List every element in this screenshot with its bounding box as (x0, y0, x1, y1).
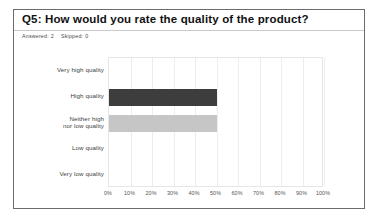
gridline (238, 58, 239, 186)
answered-label: Answered: (22, 33, 49, 39)
y-axis-label: Neither highnor low quality (14, 115, 104, 130)
x-axis-tick-label: 60% (231, 190, 242, 196)
survey-question-card: Q5: How would you rate the quality of th… (13, 9, 365, 209)
plot-area (108, 57, 323, 187)
skipped-value: 0 (85, 33, 88, 39)
x-axis-tick-label: 80% (274, 190, 285, 196)
y-axis-label-line: Very low quality (14, 170, 104, 177)
x-axis-tick-label: 90% (296, 190, 307, 196)
y-axis-label-line: Neither high (14, 115, 104, 122)
x-axis-labels: 0%10%20%30%40%50%60%70%80%90%100% (108, 190, 323, 202)
y-axis-label-line: Low quality (14, 144, 104, 151)
y-axis-label-line: nor low quality (14, 122, 104, 129)
gridline (260, 58, 261, 186)
x-axis-tick-label: 30% (167, 190, 178, 196)
skipped-label: Skipped: (61, 33, 83, 39)
x-axis-tick-label: 70% (253, 190, 264, 196)
page-title: Q5: How would you rate the quality of th… (22, 13, 309, 25)
card-header: Q5: How would you rate the quality of th… (14, 10, 364, 31)
y-axis-label: Low quality (14, 144, 104, 151)
y-axis-label: High quality (14, 92, 104, 99)
y-axis-label-line: Very high quality (14, 66, 104, 73)
gridline (303, 58, 304, 186)
y-axis-label-line: High quality (14, 92, 104, 99)
bar-chart: Very high qualityHigh qualityNeither hig… (14, 50, 366, 208)
y-axis-labels: Very high qualityHigh qualityNeither hig… (14, 57, 104, 187)
x-axis-tick-label: 100% (316, 190, 330, 196)
answered-value: 2 (51, 33, 54, 39)
x-axis-tick-label: 50% (210, 190, 221, 196)
y-axis-label: Very high quality (14, 66, 104, 73)
x-axis-tick-label: 20% (145, 190, 156, 196)
bar (109, 115, 217, 132)
x-axis-tick-label: 0% (104, 190, 112, 196)
response-summary: Answered:2Skipped:0 (22, 33, 88, 39)
gridline (324, 58, 325, 186)
bar (109, 89, 217, 106)
gridline (281, 58, 282, 186)
x-axis-tick-label: 10% (124, 190, 135, 196)
y-axis-label: Very low quality (14, 170, 104, 177)
gridline (217, 58, 218, 186)
x-axis-tick-label: 40% (188, 190, 199, 196)
